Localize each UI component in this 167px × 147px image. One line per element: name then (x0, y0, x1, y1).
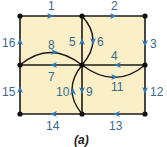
edge-label-6: 6 (97, 35, 104, 49)
node (142, 111, 147, 116)
edge-label-4: 4 (111, 49, 118, 63)
edge-label-15: 15 (2, 85, 16, 99)
node (142, 62, 147, 67)
node (17, 13, 22, 18)
edge-label-2: 2 (111, 0, 118, 13)
edge-label-14: 14 (46, 119, 60, 133)
edge-label-1: 1 (48, 0, 55, 13)
node (79, 111, 84, 116)
edge-label-11: 11 (111, 80, 124, 94)
edge-label-5: 5 (69, 35, 76, 49)
edge-label-13: 13 (109, 119, 123, 133)
edge-label-10: 10 (56, 85, 70, 99)
edge-label-16: 16 (2, 36, 16, 50)
node (79, 13, 84, 18)
figure-caption: (a) (74, 133, 89, 147)
edge-label-3: 3 (150, 37, 157, 51)
node (17, 111, 22, 116)
edge-label-12: 12 (150, 85, 164, 99)
edge-label-9: 9 (86, 85, 93, 99)
graph-diagram: 1 2 3 4 5 6 7 8 9 10 11 12 13 14 15 16 (… (0, 0, 167, 147)
edge-label-7: 7 (48, 70, 55, 84)
edge-label-8: 8 (48, 38, 55, 52)
node (17, 62, 22, 67)
node (79, 62, 84, 67)
node (142, 13, 147, 18)
